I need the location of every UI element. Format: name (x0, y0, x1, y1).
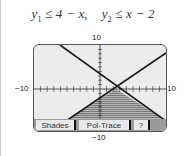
x-min-label: −10 (15, 84, 29, 93)
ineq2-rhs: ≤ x − 2 (112, 6, 155, 21)
shades-button[interactable]: Shades (36, 120, 76, 130)
inequality-header: y1 ≤ 4 − x, y2 ≤ x − 2 (0, 6, 186, 24)
calculator-button-bar: Shades Pol-Trace ? (34, 119, 166, 131)
x-max-label: 10 (167, 84, 176, 93)
y-min-label: −10 (92, 133, 106, 142)
help-button[interactable]: ? (134, 120, 150, 130)
shaded-region (66, 89, 166, 121)
pol-trace-button[interactable]: Pol-Trace (79, 120, 131, 130)
calculator-graph-screen: Shades Pol-Trace ? (33, 44, 167, 132)
y-max-label: 10 (92, 33, 101, 42)
ineq1-rhs: ≤ 4 − x, (42, 6, 88, 21)
